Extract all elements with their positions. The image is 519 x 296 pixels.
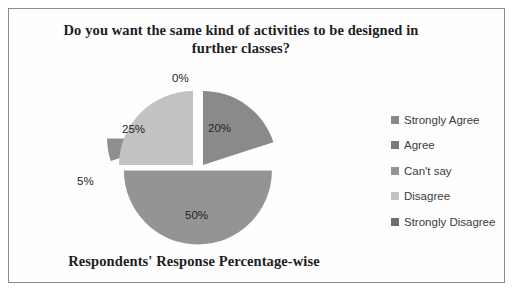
chart-title-line-1: Do you want the same kind of activities … [64,22,419,38]
legend-item-agree[interactable]: Agree [391,133,503,159]
legend-item-strongly-agree[interactable]: Strongly Agree [391,107,503,133]
pie-chart-plot-area: 0% 20% 50% 5% 25% [9,67,369,257]
chart-frame: Do you want the same kind of activities … [8,8,505,283]
legend-swatch-icon [391,192,399,200]
pie-label-agree: 0% [172,72,189,84]
pie-label-disagree: 5% [77,175,94,187]
chart-title-line-2: further classes? [31,39,451,57]
pie-label-strongly-disagree: 25% [122,123,145,135]
legend-label: Strongly Disagree [404,216,495,228]
legend-swatch-icon [391,218,399,226]
chart-caption: Respondents' Response Percentage-wise [29,253,359,270]
legend-label: Agree [404,139,435,151]
legend-item-strongly-disagree[interactable]: Strongly Disagree [391,209,503,235]
chart-title: Do you want the same kind of activities … [31,21,451,57]
pie-label-strongly-agree: 20% [208,122,231,134]
legend-label: Can't say [404,165,452,177]
pie-label-cant-say: 50% [185,209,208,221]
pie-slice-cant-say[interactable] [124,171,272,245]
legend-swatch-icon [391,167,399,175]
chart-legend: Strongly Agree Agree Can't say Disagree … [391,107,503,235]
legend-item-cant-say[interactable]: Can't say [391,158,503,184]
legend-swatch-icon [391,141,399,149]
legend-label: Disagree [404,190,450,202]
pie-chart-graphic [93,79,303,254]
legend-item-disagree[interactable]: Disagree [391,184,503,210]
legend-label: Strongly Agree [404,114,479,126]
legend-swatch-icon [391,116,399,124]
